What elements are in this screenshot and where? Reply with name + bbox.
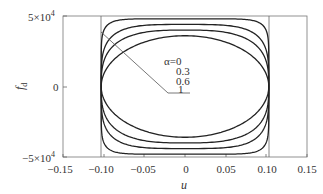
hysteresis-chart: α=0 0.3 0.6 1 −0.15 −0.10 −0.05 0 0.05 0…	[0, 0, 323, 194]
x-tick-label: −0.05	[130, 163, 156, 175]
x-axis-label: u	[181, 178, 187, 192]
x-tick-label: 0.05	[216, 163, 236, 175]
x-tick-label: 0.15	[297, 163, 317, 175]
y-tick-label-bottom: −5×104	[22, 150, 55, 164]
y-ticks	[63, 16, 67, 157]
y-tick-label-zero: 0	[53, 81, 59, 93]
x-tick-label: 0	[183, 163, 189, 175]
x-tick-label: −0.10	[88, 163, 114, 175]
x-tick-label: 0.10	[257, 163, 277, 175]
y-tick-label-top: 5×104	[28, 9, 55, 23]
annotation-alpha-1: 1	[178, 83, 184, 95]
y-axis-label: fd	[13, 83, 29, 90]
x-tick-label: −0.15	[47, 163, 73, 175]
x-tick-labels: −0.15 −0.10 −0.05 0 0.05 0.10 0.15	[47, 163, 317, 175]
